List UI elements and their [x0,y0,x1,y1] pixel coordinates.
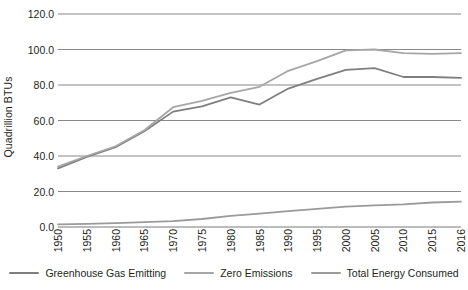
gridlines [58,14,461,227]
x-axis-tick-labels: 1950195519601965197019751980198519901995… [58,229,461,263]
x-axis-tick-label: 2010 [397,229,409,263]
plot-area [58,14,461,227]
y-axis-tick-label: 120.0 [8,8,54,20]
x-axis-tick-label: 1970 [167,229,179,263]
legend-label: Total Energy Consumed [347,267,459,279]
line-chart: Quadrillion BTUs 0.020.040.060.080.0100.… [0,0,468,290]
series-line [58,202,461,225]
y-axis-tick-label: 100.0 [8,44,54,56]
x-axis-tick-label: 2000 [340,229,352,263]
x-axis-tick-label: 2016 [455,229,467,263]
legend-line-swatch [311,272,341,274]
x-axis-tick-label: 1955 [81,229,93,263]
legend-item[interactable]: Zero Emissions [184,267,292,279]
x-axis-tick-label: 1965 [138,229,150,263]
y-axis-tick-label: 40.0 [8,150,54,162]
legend-label: Zero Emissions [220,267,292,279]
x-axis-tick-label: 1950 [52,229,64,263]
x-axis-tick-label: 1995 [311,229,323,263]
series-lines [58,50,461,225]
x-axis-tick-label: 1960 [110,229,122,263]
x-axis-tick-label: 2015 [426,229,438,263]
x-axis-tick-label: 1990 [282,229,294,263]
legend-line-swatch [184,272,214,274]
x-axis-tick-label: 1975 [196,229,208,263]
legend-item[interactable]: Greenhouse Gas Emitting [9,267,166,279]
series-line [58,50,461,167]
plot-svg [58,14,461,227]
x-axis-tick-label: 1985 [254,229,266,263]
x-axis-tick-label: 1980 [225,229,237,263]
chart-legend: Greenhouse Gas EmittingZero EmissionsTot… [0,264,468,282]
series-line [58,68,461,168]
x-axis-tick-label: 2005 [369,229,381,263]
y-axis-tick-label: 0.0 [8,221,54,233]
legend-item[interactable]: Total Energy Consumed [311,267,459,279]
legend-label: Greenhouse Gas Emitting [45,267,166,279]
y-axis-tick-label: 60.0 [8,115,54,127]
legend-line-swatch [9,272,39,274]
y-axis-tick-label: 20.0 [8,186,54,198]
y-axis-tick-label: 80.0 [8,79,54,91]
y-axis-tick-labels: 0.020.040.060.080.0100.0120.0 [4,0,54,290]
